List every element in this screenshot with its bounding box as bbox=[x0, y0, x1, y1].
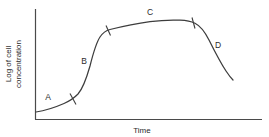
chart-axes bbox=[35, 9, 262, 120]
y-axis-label-line2: concentration bbox=[14, 40, 23, 88]
y-axis-label: Log of cell concentration bbox=[4, 40, 23, 88]
phase-label-b: B bbox=[81, 56, 87, 66]
growth-curve-path bbox=[36, 20, 233, 112]
phase-boundary-ticks bbox=[70, 18, 195, 105]
growth-curve-chart: A B C D Time Log of cell concentration bbox=[0, 0, 269, 137]
y-axis-label-line1: Log of cell bbox=[4, 46, 13, 83]
phase-tick-a-b bbox=[70, 94, 76, 105]
phase-label-c: C bbox=[147, 7, 153, 17]
chart-canvas: A B C D Time Log of cell concentration bbox=[0, 0, 269, 137]
phase-label-d: D bbox=[215, 40, 221, 50]
x-axis-label: Time bbox=[133, 126, 151, 135]
phase-label-a: A bbox=[45, 92, 51, 102]
